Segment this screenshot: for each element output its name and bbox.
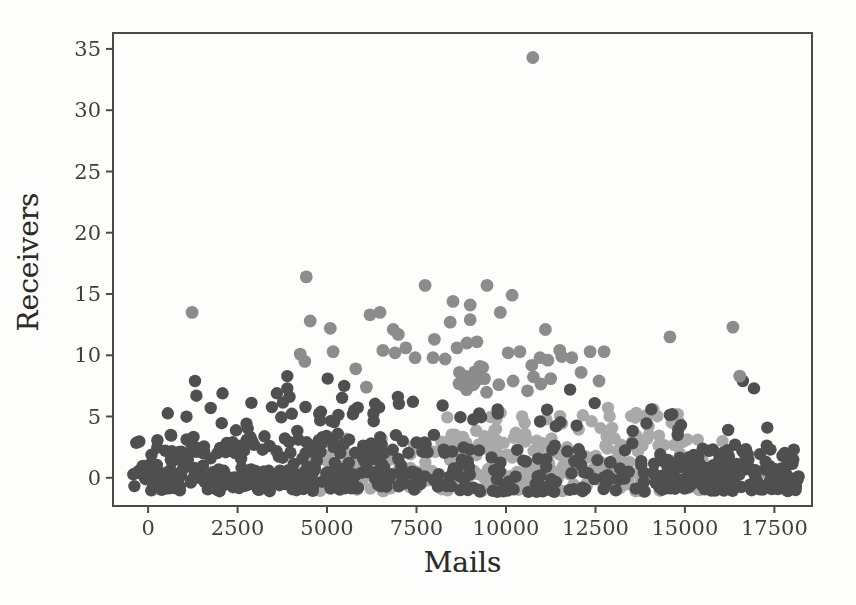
data-point bbox=[627, 425, 639, 437]
data-point bbox=[428, 429, 440, 441]
data-point bbox=[521, 384, 534, 397]
data-point bbox=[464, 299, 477, 312]
data-point bbox=[351, 482, 363, 494]
data-point bbox=[478, 372, 491, 385]
data-point bbox=[597, 483, 609, 495]
x-tick-label: 15000 bbox=[651, 516, 718, 540]
data-point bbox=[186, 474, 198, 486]
data-point bbox=[729, 439, 741, 451]
data-point bbox=[520, 455, 532, 467]
data-point bbox=[283, 391, 295, 403]
data-point bbox=[332, 428, 344, 440]
data-point bbox=[663, 481, 675, 493]
data-point bbox=[186, 306, 199, 319]
data-point bbox=[427, 351, 440, 364]
data-point bbox=[506, 289, 519, 302]
data-point bbox=[165, 429, 177, 441]
data-point bbox=[380, 481, 392, 493]
x-axis-label: Mails bbox=[113, 546, 812, 579]
x-tick-label: 5000 bbox=[300, 516, 353, 540]
data-point bbox=[593, 375, 606, 388]
data-point bbox=[749, 464, 761, 476]
data-point bbox=[361, 458, 373, 470]
data-point bbox=[378, 461, 390, 473]
data-point bbox=[189, 375, 201, 387]
data-point bbox=[349, 362, 362, 375]
data-point bbox=[180, 411, 192, 423]
data-point bbox=[299, 401, 311, 413]
data-point bbox=[436, 399, 448, 411]
data-point bbox=[243, 464, 255, 476]
data-point bbox=[409, 351, 422, 364]
data-point bbox=[240, 417, 252, 429]
data-point bbox=[598, 345, 611, 358]
data-point bbox=[602, 402, 614, 414]
data-point bbox=[635, 459, 647, 471]
data-point bbox=[320, 430, 332, 442]
data-point bbox=[608, 432, 620, 444]
data-point bbox=[374, 431, 386, 443]
data-point bbox=[230, 424, 242, 436]
data-point bbox=[542, 354, 555, 367]
data-point bbox=[334, 483, 346, 495]
data-point bbox=[281, 370, 293, 382]
data-point bbox=[266, 401, 278, 413]
data-point bbox=[324, 322, 337, 335]
y-tick-label: 15 bbox=[74, 282, 101, 306]
data-point bbox=[347, 408, 359, 420]
data-point bbox=[507, 375, 520, 388]
data-point bbox=[390, 429, 402, 441]
data-point bbox=[511, 444, 523, 456]
data-point bbox=[284, 447, 296, 459]
data-point bbox=[286, 408, 298, 420]
data-point bbox=[770, 477, 782, 489]
data-point bbox=[467, 413, 479, 425]
data-point bbox=[471, 335, 484, 348]
data-point bbox=[446, 445, 458, 457]
data-point bbox=[453, 366, 466, 379]
y-tick-label: 30 bbox=[74, 98, 101, 122]
data-point bbox=[473, 444, 485, 456]
data-point bbox=[291, 425, 303, 437]
data-point bbox=[198, 440, 210, 452]
data-point bbox=[759, 456, 771, 468]
data-point bbox=[447, 295, 460, 308]
x-tick-label: 7500 bbox=[390, 516, 443, 540]
data-point bbox=[407, 396, 419, 408]
data-point bbox=[573, 443, 585, 455]
data-point bbox=[480, 386, 493, 399]
data-point bbox=[492, 378, 505, 391]
data-point bbox=[392, 328, 405, 341]
data-point bbox=[679, 481, 691, 493]
data-point bbox=[434, 478, 446, 490]
data-point bbox=[588, 473, 600, 485]
data-point bbox=[610, 484, 622, 496]
y-tick-label: 0 bbox=[88, 466, 101, 490]
data-point bbox=[374, 306, 387, 319]
data-point bbox=[217, 468, 229, 480]
data-point bbox=[492, 407, 504, 419]
data-point bbox=[568, 455, 580, 467]
data-point bbox=[216, 387, 228, 399]
data-point bbox=[761, 421, 773, 433]
data-point bbox=[464, 313, 477, 326]
data-point bbox=[327, 345, 340, 358]
scatter-plot-canvas: 0250050007500100001250015000175000510152… bbox=[0, 0, 856, 605]
data-point bbox=[534, 415, 546, 427]
data-point bbox=[298, 355, 311, 368]
data-point bbox=[398, 467, 410, 479]
data-point bbox=[733, 370, 746, 383]
data-point bbox=[579, 483, 591, 495]
data-point bbox=[540, 461, 552, 473]
data-point bbox=[300, 271, 313, 284]
y-tick-label: 35 bbox=[74, 37, 101, 61]
data-point bbox=[369, 444, 381, 456]
data-point bbox=[764, 443, 776, 455]
data-point bbox=[571, 419, 583, 431]
data-point bbox=[205, 402, 217, 414]
data-point bbox=[446, 429, 458, 441]
data-point bbox=[730, 458, 742, 470]
data-point bbox=[514, 345, 527, 358]
data-point bbox=[491, 473, 503, 485]
data-point bbox=[244, 431, 256, 443]
